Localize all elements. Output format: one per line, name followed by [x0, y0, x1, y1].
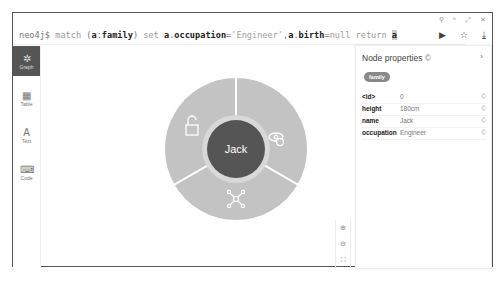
collapse-panel-button[interactable]: ›: [480, 52, 483, 61]
copy-icon[interactable]: ©: [476, 128, 486, 140]
collapse-icon[interactable]: ^: [453, 16, 456, 24]
graph-canvas[interactable]: Jack: [41, 46, 353, 267]
code-icon: ⌨: [20, 164, 34, 175]
close-icon[interactable]: ✕: [480, 16, 486, 24]
zoom-out-icon[interactable]: ⊖: [340, 240, 346, 248]
zoom-in-icon[interactable]: ⊕: [340, 224, 346, 232]
svg-text:Jack: Jack: [225, 143, 248, 155]
view-sidebar: ✲ Graph ▦ Table A Text ⌨ Code: [13, 46, 41, 267]
table-icon: ▦: [22, 90, 31, 101]
expand-icon[interactable]: ⤢: [465, 16, 471, 24]
prompt: neo4j$: [19, 30, 50, 40]
table-row: occupation Engineer ©: [362, 128, 486, 140]
graph-icon: ✲: [23, 53, 31, 64]
run-button[interactable]: ▶: [439, 30, 446, 41]
copy-icon[interactable]: ©: [476, 92, 486, 104]
text-icon: A: [23, 127, 30, 138]
node-properties-panel: Node properties © › family <id> 0 © heig…: [355, 45, 492, 269]
table-row: name Jack ©: [362, 116, 486, 128]
copy-icon[interactable]: ©: [425, 53, 431, 63]
panel-title: Node properties ©: [362, 53, 431, 63]
editor-actions: ▶ ☆ ⤓: [439, 30, 486, 41]
copy-icon[interactable]: ©: [476, 104, 486, 116]
query-editor[interactable]: neo4j$ match (a:family) set a.occupation…: [13, 26, 465, 45]
sidebar-item-table[interactable]: ▦ Table: [13, 83, 40, 113]
table-row: height 180cm ©: [362, 104, 486, 116]
favorite-button[interactable]: ☆: [460, 30, 468, 41]
download-button[interactable]: ⤓: [482, 30, 486, 41]
window-controls: ⚲ ^ ⤢ ✕: [439, 16, 486, 24]
properties-table: <id> 0 © height 180cm © name Jack © occu…: [362, 92, 486, 140]
table-row: <id> 0 ©: [362, 92, 486, 104]
copy-icon[interactable]: ©: [476, 116, 486, 128]
pin-icon[interactable]: ⚲: [439, 16, 444, 24]
label-badge[interactable]: family: [364, 72, 390, 82]
zoom-controls: ⊕ ⊖ ⛶: [335, 220, 351, 268]
fit-icon[interactable]: ⛶: [341, 256, 346, 264]
sidebar-item-text[interactable]: A Text: [13, 120, 40, 150]
sidebar-item-code[interactable]: ⌨ Code: [13, 157, 40, 187]
node-ring-menu: Jack: [41, 46, 353, 267]
sidebar-item-graph[interactable]: ✲ Graph: [13, 46, 40, 76]
result-frame: ⚲ ^ ⤢ ✕ neo4j$ match (a:family) set a.oc…: [12, 12, 493, 267]
